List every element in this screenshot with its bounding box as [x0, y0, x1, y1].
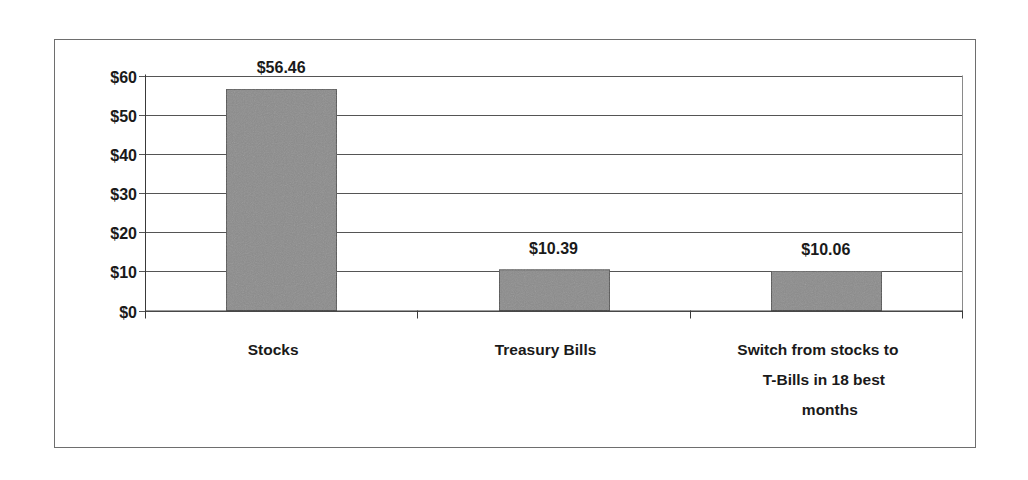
y-tick-label: $30	[110, 186, 137, 203]
category-label: Stocks	[248, 341, 299, 358]
y-tick-label: $40	[110, 147, 137, 164]
y-tick-label: $20	[110, 225, 137, 242]
category-labels: StocksTreasury BillsSwitch from stocks t…	[248, 341, 899, 418]
y-tick-label: $60	[110, 69, 137, 86]
category-label: months	[802, 401, 858, 418]
bars	[227, 89, 882, 310]
bar-treasury-bills	[500, 270, 610, 311]
bar-stocks	[227, 89, 337, 310]
category-label: Treasury Bills	[495, 341, 597, 358]
category-label: Switch from stocks to	[737, 341, 898, 358]
data-labels: $56.46$10.39$10.06	[257, 59, 851, 258]
y-axis-tick-labels: $0$10$20$30$40$50$60	[110, 69, 137, 321]
data-label: $56.46	[257, 59, 306, 76]
category-label: T-Bills in 18 best	[763, 371, 885, 388]
y-tick-label: $10	[110, 264, 137, 281]
bar-switch-from-stocks-to-t-bills-in-18-best-months	[772, 271, 882, 310]
y-tick-label: $0	[119, 304, 137, 321]
bar-chart: $0$10$20$30$40$50$60 $56.46$10.39$10.06 …	[0, 0, 1028, 480]
data-label: $10.06	[801, 241, 850, 258]
y-tick-label: $50	[110, 108, 137, 125]
data-label: $10.39	[529, 240, 578, 257]
